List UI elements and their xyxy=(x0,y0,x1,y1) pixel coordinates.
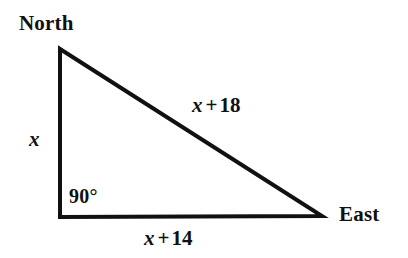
side-label-base-leg: x+14 xyxy=(144,228,192,249)
base-leg-constant: 14 xyxy=(171,226,192,250)
hypotenuse-constant: 18 xyxy=(219,93,240,117)
base-leg-operator: + xyxy=(156,226,172,250)
side-label-hypotenuse: x+18 xyxy=(192,95,240,116)
hypotenuse-variable: x xyxy=(192,93,204,117)
right-triangle-outline xyxy=(60,49,322,217)
side-label-vertical-leg: x xyxy=(29,129,41,150)
base-leg-variable: x xyxy=(144,226,156,250)
triangle-figure: North East x x+18 x+14 90° xyxy=(0,0,408,258)
vertex-label-east: East xyxy=(339,204,379,225)
hypotenuse-operator: + xyxy=(204,93,220,117)
vertex-label-north: North xyxy=(19,13,74,34)
vertical-leg-variable: x xyxy=(29,127,41,151)
right-angle-label: 90° xyxy=(69,186,98,206)
